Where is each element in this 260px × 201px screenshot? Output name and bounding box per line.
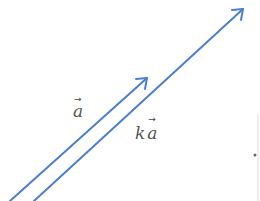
vector-ka [34, 9, 243, 201]
edge-mark [254, 154, 257, 157]
vector-arrow-icon: → [74, 95, 82, 104]
label-ka: k→a [135, 125, 157, 142]
vector-arrow-icon: → [148, 115, 156, 124]
vector-diagram [0, 0, 260, 201]
label-a: → a [73, 103, 83, 120]
